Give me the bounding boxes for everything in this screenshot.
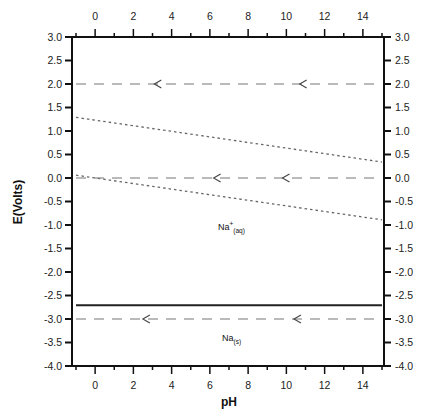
na-s-sub: (s)	[234, 338, 242, 346]
y-tick-label-right: -3.5	[395, 336, 413, 348]
plot-lines	[76, 80, 382, 323]
arrow-left-icon	[214, 174, 221, 182]
y-tick-label-right: -1.5	[395, 242, 413, 254]
x-tick-label-bottom: 4	[169, 379, 175, 391]
y-tick-label-right: -0.5	[395, 195, 413, 207]
y-tick-label-left: 0.5	[47, 148, 62, 160]
arrow-left-icon	[282, 174, 289, 182]
x-tick-label-top: 14	[357, 10, 369, 22]
x-tick-label-top: 2	[130, 10, 136, 22]
x-tick-label-bottom: 8	[245, 379, 251, 391]
y-tick-label-right: -3.0	[395, 313, 413, 325]
y-tick-label-left: 2.5	[47, 54, 62, 66]
series-line-dotted	[76, 117, 382, 162]
y-tick-label-left: 0.0	[47, 172, 62, 184]
x-tick-label-top: 12	[319, 10, 331, 22]
arrow-left-icon	[300, 80, 307, 88]
y-tick-label-left: -2.0	[44, 266, 62, 278]
y-tick-label-right: -2.0	[395, 266, 413, 278]
y-tick-label-right: 1.5	[395, 101, 410, 113]
region-label-na-aq: Na+(aq)	[218, 220, 245, 235]
y-tick-label-right: 0.5	[395, 148, 410, 160]
x-tick-label-bottom: 14	[357, 379, 369, 391]
y-tick-label-left: -0.5	[44, 195, 62, 207]
x-tick-label-top: 10	[281, 10, 293, 22]
pourbaix-diagram: 3.03.02.52.52.02.01.51.51.01.00.50.50.00…	[0, 0, 429, 415]
y-tick-label-left: -3.5	[44, 336, 62, 348]
x-tick-label-top: 8	[245, 10, 251, 22]
x-tick-label-bottom: 6	[207, 379, 213, 391]
y-tick-label-left: 2.0	[47, 78, 62, 90]
na-aq-main: Na	[218, 222, 230, 232]
x-tick-label-bottom: 10	[281, 379, 293, 391]
x-tick-label-top: 6	[207, 10, 213, 22]
x-tick-label-bottom: 2	[130, 379, 136, 391]
series-line-dotted	[76, 175, 382, 220]
y-tick-label-left: -4.0	[44, 360, 62, 372]
x-tick-label-bottom: 0	[92, 379, 98, 391]
y-tick-label-left: -1.5	[44, 242, 62, 254]
na-aq-sub: (aq)	[233, 227, 245, 235]
x-tick-label-bottom: 12	[319, 379, 331, 391]
y-tick-label-right: 3.0	[395, 31, 410, 43]
y-tick-label-right: -1.0	[395, 219, 413, 231]
y-tick-label-right: 1.0	[395, 125, 410, 137]
x-tick-label-top: 0	[92, 10, 98, 22]
na-aq-sup: +	[230, 220, 234, 227]
y-tick-label-left: -1.0	[44, 219, 62, 231]
region-label-na-s: Na(s)	[222, 333, 241, 346]
y-tick-label-left: -3.0	[44, 313, 62, 325]
y-tick-label-left: -2.5	[44, 289, 62, 301]
y-tick-label-right: 0.0	[395, 172, 410, 184]
y-tick-label-right: 2.5	[395, 54, 410, 66]
y-tick-label-left: 1.0	[47, 125, 62, 137]
y-axis-title: E(Volts)	[11, 180, 25, 224]
y-tick-label-right: -4.0	[395, 360, 413, 372]
y-tick-label-left: 3.0	[47, 31, 62, 43]
na-s-main: Na	[222, 333, 234, 343]
x-tick-label-top: 4	[169, 10, 175, 22]
y-tick-label-left: 1.5	[47, 101, 62, 113]
axes	[72, 37, 384, 366]
y-tick-label-right: -2.5	[395, 289, 413, 301]
x-axis-title: pH	[221, 395, 237, 409]
y-tick-label-right: 2.0	[395, 78, 410, 90]
